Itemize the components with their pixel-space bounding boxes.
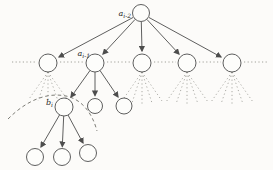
tree-node-l4-2 <box>54 149 71 166</box>
tree-edge-arrow <box>59 18 133 58</box>
tree-node-l2-1 <box>39 54 57 72</box>
subtree-ray-dotted <box>142 72 152 103</box>
subtree-ray-dotted <box>122 72 142 101</box>
subtree-ray-dotted <box>38 72 48 101</box>
subtree-ray-dotted <box>232 72 243 104</box>
subtree-ray-dotted <box>232 72 253 102</box>
subtree-ray-dotted <box>166 72 187 102</box>
tree-diagram-svg: ai-2ai-1bi <box>0 0 273 170</box>
tree-node-l3-b <box>55 98 73 116</box>
label-root: ai-2 <box>118 9 131 19</box>
subtree-ray-dotted <box>187 72 198 104</box>
subtree-ray-dotted <box>211 72 232 102</box>
tree-node-l4-3 <box>80 145 97 162</box>
tree-node-l2-4 <box>178 54 196 72</box>
subtree-ray-dotted <box>221 72 232 104</box>
subtree-ray-dotted <box>29 72 48 99</box>
tree-node-l2-3 <box>133 54 151 72</box>
tree-edge-arrow <box>41 115 60 147</box>
tree-node-l2-5 <box>223 54 241 72</box>
tree-figure: ai-2ai-1bi <box>0 0 273 170</box>
tree-edge-arrow <box>71 71 90 98</box>
tree-node-l3-r <box>116 98 132 114</box>
tree-node-l4-1 <box>27 149 44 166</box>
label-l3-b: bi <box>46 98 53 108</box>
tree-edge-arrow <box>141 22 142 51</box>
tree-node-l3-m <box>88 99 103 114</box>
subtree-ray-dotted <box>142 72 162 101</box>
tree-edge-arrow <box>100 71 118 98</box>
label-l2-2: ai-1 <box>77 49 90 59</box>
subtree-ray-dotted <box>176 72 187 104</box>
subtree-ray-dotted <box>132 72 142 103</box>
tree-edge-arrow <box>149 18 221 58</box>
tree-edge-arrow <box>62 116 63 147</box>
tree-edge-arrow <box>68 115 83 143</box>
subtree-ray-dotted <box>48 72 67 99</box>
subtree-ray-dotted <box>48 72 58 101</box>
subtree-ray-dotted <box>187 72 208 102</box>
tree-node-root <box>133 5 150 22</box>
